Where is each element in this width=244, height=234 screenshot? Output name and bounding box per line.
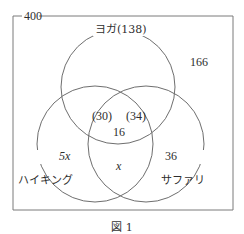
region-yoga-safari: (34)	[126, 110, 146, 122]
universe-total-label: 400	[24, 10, 42, 22]
yoga-set-label: ヨガ(138)	[95, 24, 147, 36]
region-hiking-safari: x	[116, 160, 121, 172]
safari-set-label: サファリ	[161, 175, 205, 187]
outside-count: 166	[190, 56, 208, 68]
hiking-set-label: ハイキング	[18, 175, 73, 187]
region-hiking-only: 5x	[59, 150, 70, 162]
region-all-three: 16	[113, 126, 125, 138]
region-safari-only: 36	[165, 150, 177, 162]
venn-diagram: 400 ヨガ(138) 166 (30) (34) 16 5x x 36 ハイキ…	[0, 0, 244, 234]
region-yoga-hiking: (30)	[92, 110, 112, 122]
figure-caption: 図 1	[0, 218, 244, 234]
